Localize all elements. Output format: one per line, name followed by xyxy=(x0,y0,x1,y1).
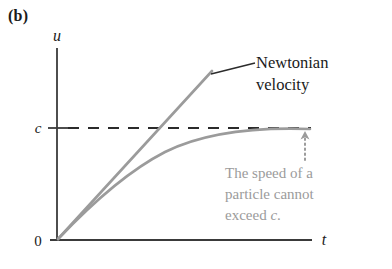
speed-limit-line-2: particle cannot xyxy=(225,186,315,202)
relativistic-velocity-figure: (b) u t 0 c Newtonian velocity xyxy=(0,0,392,269)
speed-limit-callout: The speed of a particle cannot exceed c. xyxy=(225,165,315,223)
speed-limit-line-3-prefix: exceed xyxy=(225,207,270,223)
newtonian-callout-line-1: Newtonian xyxy=(256,53,328,72)
speed-limit-line-3: exceed c. xyxy=(225,207,281,223)
speed-limit-line-3-suffix: . xyxy=(277,207,281,223)
newtonian-velocity-line xyxy=(58,71,212,239)
speed-limit-arrow xyxy=(301,131,310,160)
newtonian-velocity-callout: Newtonian velocity xyxy=(256,53,328,94)
y-axis-label: u xyxy=(53,27,61,44)
x-axis-label: t xyxy=(322,231,327,248)
newtonian-callout-line-2: velocity xyxy=(256,75,310,94)
chart-canvas: u t 0 c Newtonian velocity The speed of … xyxy=(0,0,392,269)
y-tick-label-c: c xyxy=(35,120,42,136)
origin-label: 0 xyxy=(34,233,42,249)
speed-limit-line-1: The speed of a xyxy=(225,165,313,181)
panel-label: (b) xyxy=(8,8,28,24)
newtonian-callout-leader-line xyxy=(211,63,255,74)
